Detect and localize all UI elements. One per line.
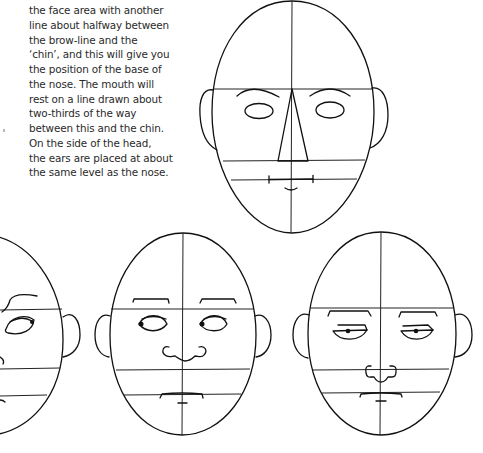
face-illustrations xyxy=(0,0,483,453)
mouth-line xyxy=(0,395,47,396)
mouth-line xyxy=(124,394,241,395)
face-heavy-lidded xyxy=(293,232,472,435)
left-brow-icon xyxy=(133,299,169,303)
face-looking-sideways xyxy=(95,233,271,435)
right-brow-icon xyxy=(310,89,350,96)
ear-icon xyxy=(63,315,80,357)
head-outline xyxy=(0,234,63,436)
right-ear-icon xyxy=(455,314,472,357)
right-brow-icon xyxy=(399,312,437,317)
right-pupil-icon xyxy=(200,322,205,327)
right-brow-icon xyxy=(200,299,236,303)
left-pupil-icon xyxy=(346,329,351,334)
nose-line xyxy=(0,368,60,369)
left-brow-icon xyxy=(328,311,371,316)
nose-fragment-icon xyxy=(0,357,4,364)
mouth-icon xyxy=(160,393,203,398)
nose-triangle-icon xyxy=(278,89,308,161)
face-construction-guides xyxy=(200,1,388,233)
mouth-icon xyxy=(360,393,402,397)
left-ear-icon xyxy=(95,315,110,357)
head-outline xyxy=(308,232,456,435)
nose-icon xyxy=(366,366,396,382)
mouth-icon xyxy=(269,179,313,180)
mouth-fragment-icon xyxy=(0,400,5,402)
nose-icon xyxy=(163,347,206,361)
pupil-icon xyxy=(30,320,34,324)
right-eye-icon xyxy=(316,102,344,118)
center-line xyxy=(182,233,183,435)
left-pupil-icon xyxy=(139,322,144,327)
right-ear-icon xyxy=(370,88,388,148)
face-partial-left xyxy=(0,234,80,436)
head-outline xyxy=(212,1,374,233)
left-eye-lid xyxy=(338,325,367,330)
center-line xyxy=(380,232,381,435)
left-ear-icon xyxy=(293,314,309,358)
nose-line xyxy=(313,369,449,370)
left-brow-icon xyxy=(237,89,279,97)
brow-line xyxy=(0,309,62,310)
left-eye-icon xyxy=(245,104,273,119)
right-ear-icon xyxy=(255,315,271,357)
right-pupil-icon xyxy=(414,329,419,334)
nose-line xyxy=(116,369,250,370)
right-eye-lid xyxy=(403,325,433,330)
center-line xyxy=(291,1,292,233)
